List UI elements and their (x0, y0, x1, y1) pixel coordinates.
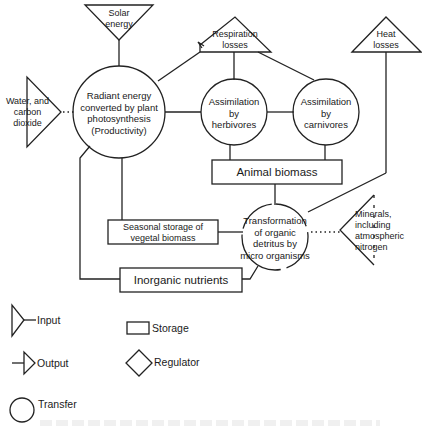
seasonal-storage-label: vegetal biomass (108, 233, 218, 244)
herbivores-label: herbivores (203, 119, 265, 131)
productivity-label: photosynthesis (76, 113, 162, 125)
carnivores-transfer: Assimilation by carnivores (295, 96, 357, 131)
minerals-label: Minerals, (355, 209, 422, 220)
carnivores-label: Assimilation (295, 96, 357, 108)
dioxide-label: dioxide (0, 118, 55, 129)
losses-label: losses (205, 40, 265, 51)
respiration-losses-output: Respiration losses (205, 29, 265, 51)
carnivores-label: by (295, 108, 357, 120)
carbon-label: carbon (0, 107, 55, 118)
seasonal-storage: Seasonal storage of vegetal biomass (108, 222, 218, 244)
minerals-label: atmospheric (355, 231, 422, 242)
legend-transfer: Transfer (38, 398, 77, 410)
animal-biomass-storage: Animal biomass (212, 166, 342, 179)
minerals-label: nitrogen (355, 242, 422, 253)
productivity-label: converted by plant (76, 102, 162, 114)
solar-energy-label: energy (98, 19, 140, 30)
productivity-label: Radiant energy (76, 90, 162, 102)
heat-label: Heat (366, 29, 406, 40)
respiration-label: Respiration (205, 29, 265, 40)
water-label: Water, and (0, 96, 55, 107)
seasonal-storage-label: Seasonal storage of (108, 222, 218, 233)
productivity-transfer: Radiant energy converted by plant photos… (76, 90, 162, 136)
decomposition-transfer: Transformation of organic detritus by mi… (237, 215, 313, 261)
herbivores-transfer: Assimilation by herbivores (203, 96, 265, 131)
losses-label: losses (366, 40, 406, 51)
herbivores-label: Assimilation (203, 96, 265, 108)
heat-losses-output: Heat losses (366, 29, 406, 51)
decomposition-label: of organic (237, 227, 313, 239)
productivity-label: (Productivity) (76, 125, 162, 137)
legend-storage: Storage (152, 322, 189, 334)
herbivores-label: by (203, 108, 265, 120)
legend-regulator: Regulator (154, 356, 200, 368)
cropped-caption (40, 420, 380, 426)
water-co2-input: Water, and carbon dioxide (0, 96, 55, 129)
decomposition-label: micro organisms (237, 250, 313, 262)
decomposition-label: detritus by (237, 238, 313, 250)
minerals-input: Minerals, including atmospheric nitrogen (355, 209, 422, 253)
solar-energy-input: Solar energy (98, 8, 140, 30)
minerals-label: including (355, 220, 422, 231)
legend-input: Input (37, 314, 60, 326)
solar-energy-label: Solar (98, 8, 140, 19)
inorganic-nutrients-storage: Inorganic nutrients (120, 274, 242, 287)
carnivores-label: carnivores (295, 119, 357, 131)
decomposition-label: Transformation (237, 215, 313, 227)
legend-output: Output (37, 357, 69, 369)
